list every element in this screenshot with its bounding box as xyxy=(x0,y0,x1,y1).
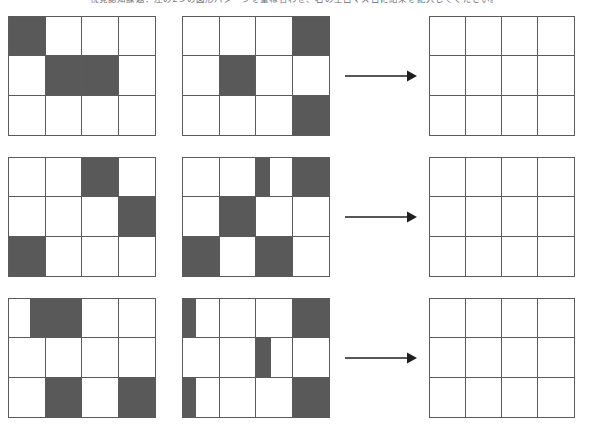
puzzle-row-3 xyxy=(0,298,589,418)
grid-cell[interactable] xyxy=(502,378,538,417)
grid-cell[interactable] xyxy=(502,237,538,276)
grid-cell xyxy=(82,17,119,56)
cell-fill-shape xyxy=(293,299,330,338)
grid-cell[interactable] xyxy=(466,378,502,417)
cell-fill-shape xyxy=(183,237,220,276)
grid-cell xyxy=(9,338,46,377)
cell-fill-shape xyxy=(46,378,83,417)
row-1-grid-b xyxy=(182,16,330,136)
grid-cell[interactable] xyxy=(502,56,538,95)
grid-cell[interactable] xyxy=(502,338,538,377)
grid-cell xyxy=(82,96,119,135)
grid-cell xyxy=(293,299,330,338)
grid-cell xyxy=(220,378,257,417)
grid-cell xyxy=(119,158,156,197)
row-3-grid-answer[interactable] xyxy=(429,298,575,418)
cell-fill-shape xyxy=(183,378,196,417)
grid-cell[interactable] xyxy=(466,17,502,56)
grid-cell xyxy=(82,197,119,236)
grid-cell xyxy=(46,197,83,236)
grid-cell xyxy=(82,237,119,276)
grid-cell xyxy=(256,237,293,276)
grid-cell xyxy=(46,299,83,338)
row-3-grid-b xyxy=(182,298,330,418)
grid-cell xyxy=(293,96,330,135)
grid-cell[interactable] xyxy=(538,197,574,236)
grid-cell[interactable] xyxy=(538,56,574,95)
grid-cell xyxy=(119,17,156,56)
grid-cell[interactable] xyxy=(430,56,466,95)
grid-cell xyxy=(119,378,156,417)
grid-cell[interactable] xyxy=(466,299,502,338)
grid-cell xyxy=(9,56,46,95)
grid-cell xyxy=(9,237,46,276)
grid-cell xyxy=(183,158,220,197)
grid-cell[interactable] xyxy=(430,237,466,276)
grid-cell[interactable] xyxy=(430,158,466,197)
grid-cell xyxy=(183,338,220,377)
grid-cell[interactable] xyxy=(430,96,466,135)
grid-cell[interactable] xyxy=(502,197,538,236)
grid-cell xyxy=(46,56,83,95)
grid-cell[interactable] xyxy=(430,299,466,338)
cell-fill-shape xyxy=(46,56,83,95)
grid-cell xyxy=(183,17,220,56)
grid-cell xyxy=(46,237,83,276)
grid-cell[interactable] xyxy=(538,96,574,135)
grid-cell xyxy=(82,299,119,338)
row-2-grid-answer[interactable] xyxy=(429,157,575,277)
cell-fill-shape xyxy=(256,158,270,197)
grid-cell[interactable] xyxy=(466,96,502,135)
cell-fill-shape xyxy=(82,158,119,197)
cell-fill-shape xyxy=(293,158,330,197)
grid-cell xyxy=(46,338,83,377)
grid-cell[interactable] xyxy=(538,158,574,197)
row-3-grid-a xyxy=(8,298,156,418)
grid-cell xyxy=(220,237,257,276)
grid-cell xyxy=(9,17,46,56)
grid-cell[interactable] xyxy=(538,299,574,338)
right-arrow-icon xyxy=(345,350,417,366)
grid-cell xyxy=(82,56,119,95)
grid-cell[interactable] xyxy=(466,56,502,95)
grid-cell xyxy=(183,96,220,135)
grid-cell[interactable] xyxy=(466,197,502,236)
grid-cell xyxy=(220,197,257,236)
row-1-grid-answer[interactable] xyxy=(429,16,575,136)
grid-cell xyxy=(9,197,46,236)
cell-fill-shape xyxy=(293,96,330,135)
grid-cell xyxy=(220,338,257,377)
grid-cell xyxy=(293,338,330,377)
grid-cell[interactable] xyxy=(538,237,574,276)
grid-cell[interactable] xyxy=(538,17,574,56)
cell-fill-shape xyxy=(220,197,257,236)
grid-cell[interactable] xyxy=(502,158,538,197)
grid-cell xyxy=(9,96,46,135)
grid-cell[interactable] xyxy=(538,338,574,377)
row-2-grid-b xyxy=(182,157,330,277)
grid-cell xyxy=(220,299,257,338)
grid-cell[interactable] xyxy=(430,197,466,236)
grid-cell xyxy=(256,158,293,197)
cell-fill-shape xyxy=(119,378,156,417)
grid-cell xyxy=(293,56,330,95)
grid-cell[interactable] xyxy=(502,96,538,135)
grid-cell xyxy=(293,237,330,276)
grid-cell xyxy=(256,56,293,95)
grid-cell[interactable] xyxy=(430,378,466,417)
grid-cell[interactable] xyxy=(466,237,502,276)
grid-cell xyxy=(293,158,330,197)
grid-cell[interactable] xyxy=(538,378,574,417)
grid-cell[interactable] xyxy=(466,158,502,197)
grid-cell[interactable] xyxy=(430,338,466,377)
grid-cell xyxy=(119,299,156,338)
grid-cell xyxy=(46,96,83,135)
grid-cell[interactable] xyxy=(466,338,502,377)
grid-cell xyxy=(9,299,46,338)
grid-cell[interactable] xyxy=(430,17,466,56)
grid-cell[interactable] xyxy=(502,17,538,56)
grid-cell[interactable] xyxy=(502,299,538,338)
puzzle-row-2 xyxy=(0,157,589,277)
grid-cell xyxy=(183,299,220,338)
cell-fill-shape xyxy=(46,299,83,338)
